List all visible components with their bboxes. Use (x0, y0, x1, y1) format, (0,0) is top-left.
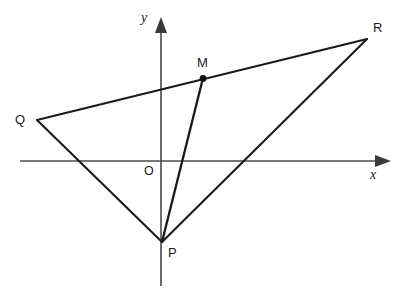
median-group (162, 78, 203, 242)
point-label-m: M (197, 56, 208, 69)
y-axis-label: y (141, 11, 147, 25)
segment-pr (162, 39, 367, 242)
x-axis-label: x (370, 168, 376, 182)
geometry-figure: P Q R M y x O (0, 0, 409, 289)
point-label-q: Q (15, 113, 25, 126)
x-axis-arrowhead (375, 155, 391, 167)
segment-pq (37, 120, 162, 242)
segment-pm (162, 78, 203, 242)
point-m-dot (200, 75, 207, 82)
origin-label: O (144, 165, 154, 178)
diagram-canvas (0, 0, 409, 289)
y-axis-arrowhead (155, 17, 167, 33)
point-label-p: P (168, 246, 177, 259)
point-label-r: R (373, 21, 382, 34)
